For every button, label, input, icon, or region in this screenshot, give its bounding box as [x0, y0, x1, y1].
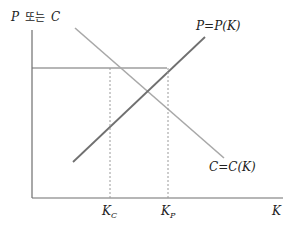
curve-p	[73, 37, 205, 162]
y-axis-label-conj: 또는	[25, 11, 45, 24]
curve-c-label: C=C(K)	[209, 160, 256, 174]
tick-kc-sub: C	[111, 211, 117, 220]
curve-p-label: P=P(K)	[195, 19, 241, 33]
tick-label-kc: KC	[101, 204, 117, 220]
y-axis-label-p: P	[10, 10, 20, 24]
x-axis-label: K	[271, 204, 282, 218]
tick-kp-sub: P	[169, 211, 176, 220]
diagram-canvas: P 또는 C P=P(K) C=C(K) K KC KP	[0, 0, 293, 227]
y-axis-label: P 또는 C	[10, 10, 60, 24]
y-axis-label-c: C	[51, 10, 60, 24]
tick-label-kp: KP	[160, 204, 176, 220]
